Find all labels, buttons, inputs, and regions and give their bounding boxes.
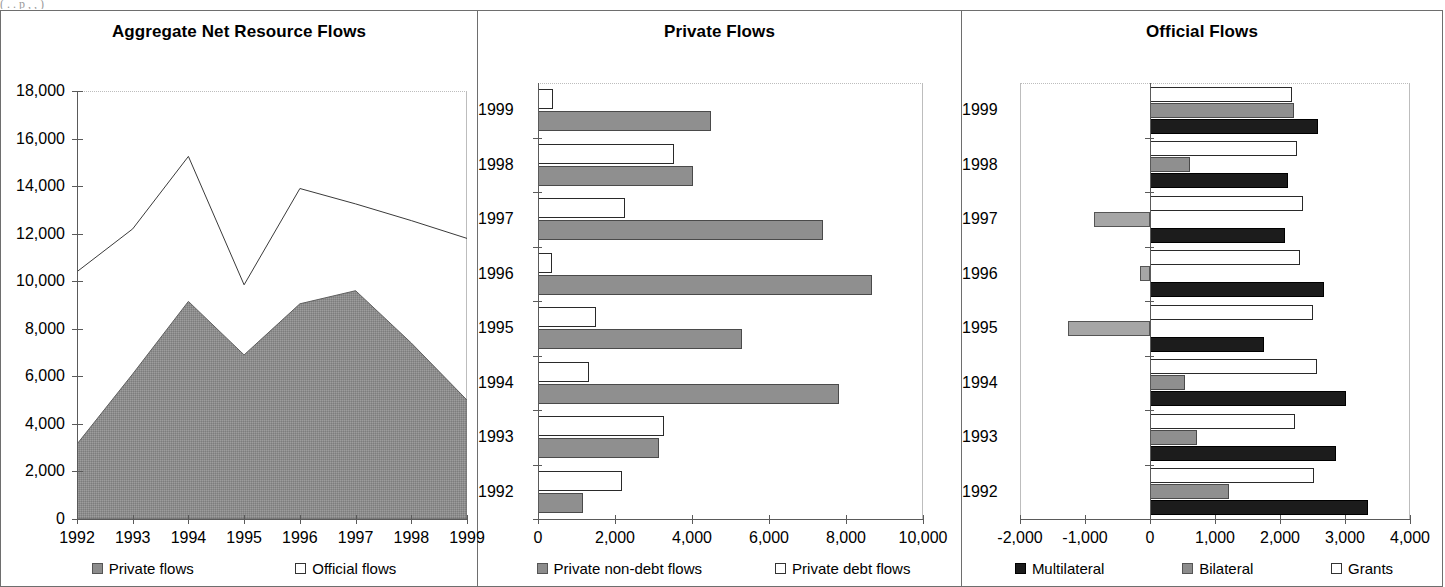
bar-grants [1150,196,1303,211]
y-cat-tick-2 [533,247,542,248]
legend-item-bilateral: Bilateral [1182,560,1253,577]
plot-frame-top-3 [1020,83,1410,84]
legend-swatch-icon [295,563,306,574]
plot-area-3 [1020,83,1410,519]
legend-label: Multilateral [1032,560,1105,577]
x-tick-2 [615,515,616,524]
bar-private-debt-flows [538,253,552,273]
bar-multilateral [1150,500,1368,515]
x-tick-label-1: 1993 [115,529,151,547]
plot-frame-right-2 [922,83,923,519]
bar-grants [1150,141,1297,156]
x-tick-label-3: 2,000 [1260,529,1300,547]
bar-private-non-debt-flows [538,384,839,404]
y-tick-1 [72,424,83,425]
x-tick-3 [1085,515,1086,524]
x-tick-label-2: 2,000 [595,529,635,547]
plot-area-2 [538,83,923,519]
x-tick-label-3: 0 [1146,529,1155,547]
x-tick-1 [77,515,78,524]
x-tick-1 [300,515,301,524]
bar-grants [1150,414,1295,429]
bar-grants [1150,87,1292,102]
bar-grants [1150,305,1313,320]
x-tick-1 [467,515,468,524]
y-category-label-2: 1994 [478,374,528,392]
official-flows-total-line [77,156,467,284]
y-category-label-3: 1999 [962,101,1008,119]
y-cat-tick-3 [1145,465,1154,466]
bar-multilateral [1150,337,1264,352]
x-tick-1 [244,515,245,524]
y-axis-frame-left-3 [1020,83,1021,520]
y-tick-1 [72,234,83,235]
y-category-label-2: 1992 [478,483,528,501]
bar-private-debt-flows [538,362,589,382]
legend-swatch-icon [1015,563,1026,574]
x-tick-3 [1280,515,1281,524]
bar-private-non-debt-flows [538,329,742,349]
figure-page: ( . . p , , ) Aggregate Net Resource Flo… [0,0,1445,587]
y-cat-tick-2 [533,356,542,357]
y-category-label-2: 1995 [478,319,528,337]
y-tick-1 [72,329,83,330]
legend-label: Official flows [312,560,396,577]
bar-private-non-debt-flows [538,166,693,186]
x-tick-label-3: -2,000 [997,529,1042,547]
bar-bilateral [1094,212,1151,227]
y-cat-tick-2 [533,465,542,466]
y-tick-1 [72,91,83,92]
y-cat-tick-3 [1145,410,1154,411]
legend-item-grants: Grants [1331,560,1393,577]
legend-swatch-icon [1331,563,1342,574]
x-tick-2 [692,515,693,524]
bar-multilateral [1150,228,1285,243]
legend-3: MultilateralBilateralGrants [962,560,1442,577]
x-tick-3 [1150,515,1151,524]
bar-private-non-debt-flows [538,275,872,295]
x-tick-label-3: -1,000 [1062,529,1107,547]
legend-label: Private flows [109,560,194,577]
x-tick-3 [1215,515,1216,524]
bar-grants [1150,250,1300,265]
x-tick-label-2: 8,000 [826,529,866,547]
x-tick-2 [846,515,847,524]
y-category-label-3: 1997 [962,210,1008,228]
y-tick-label-1: 18,000 [1,82,65,100]
x-tick-label-1: 1995 [226,529,262,547]
bar-private-non-debt-flows [538,493,583,513]
panel-aggregate-net-resource-flows: Aggregate Net Resource Flows 02,0004,000… [0,10,478,587]
legend-label: Private debt flows [792,560,910,577]
y-tick-label-1: 4,000 [1,415,65,433]
x-tick-3 [1020,515,1021,524]
bar-multilateral [1150,119,1318,134]
x-tick-label-2: 4,000 [672,529,712,547]
y-cat-tick-3 [1145,301,1154,302]
y-category-label-3: 1992 [962,483,1008,501]
bar-private-non-debt-flows [538,111,711,131]
bar-bilateral [1150,430,1197,445]
y-tick-label-1: 8,000 [1,320,65,338]
bar-private-debt-flows [538,198,625,218]
x-tick-2 [538,515,539,524]
legend-item-multilateral: Multilateral [1015,560,1105,577]
bar-private-debt-flows [538,307,596,327]
y-axis-line-1 [77,91,78,520]
private-flows-area [77,291,467,519]
x-tick-label-2: 0 [534,529,543,547]
y-tick-label-1: 10,000 [1,272,65,290]
x-tick-label-1: 1998 [393,529,429,547]
legend-swatch-icon [537,563,548,574]
legend-label: Bilateral [1199,560,1253,577]
y-cat-tick-3 [1145,356,1154,357]
bar-multilateral [1150,173,1288,188]
bar-multilateral [1150,391,1346,406]
bar-private-non-debt-flows [538,438,659,458]
legend-swatch-icon [775,563,786,574]
y-tick-1 [72,139,83,140]
bar-bilateral [1150,157,1190,172]
x-axis-line-2 [538,519,924,520]
y-cat-tick-2 [533,301,542,302]
y-category-label-2: 1999 [478,101,528,119]
clipped-caption: ( . . p , , ) [0,0,1445,9]
